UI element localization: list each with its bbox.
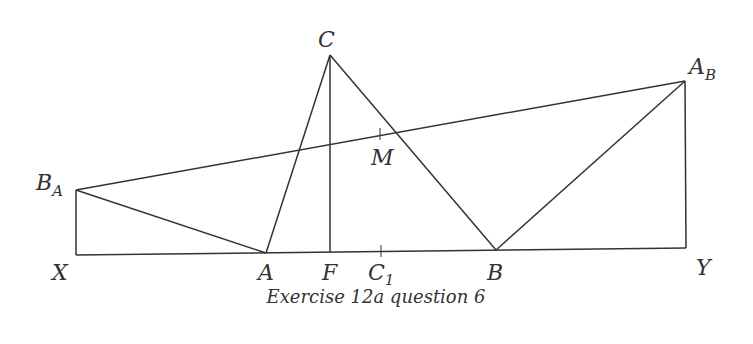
segment-AB-Y — [685, 81, 686, 248]
label-BA: BA — [35, 170, 63, 200]
label-F: F — [321, 260, 338, 285]
label-C1: C1 — [368, 260, 394, 289]
label-A: A — [256, 260, 274, 285]
label-Y: Y — [696, 255, 713, 280]
label-B: B — [486, 260, 503, 285]
segment-C-B — [330, 55, 496, 250]
figure-caption: Exercise 12a question 6 — [266, 286, 486, 307]
segment-B-AB — [496, 81, 685, 250]
label-AB: AB — [687, 54, 716, 84]
segment-BA-A — [76, 190, 266, 253]
label-M: M — [370, 145, 394, 170]
label-C: C — [318, 27, 335, 52]
geometry-diagram: C AB BA M X A F C1 B Y Exercise 12a ques… — [0, 0, 753, 344]
label-X: X — [50, 260, 69, 285]
